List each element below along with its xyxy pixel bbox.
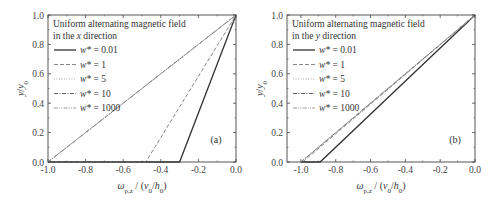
x-tick-label: -0.4 — [398, 165, 413, 175]
y-tick-label: 0.2 — [271, 128, 283, 138]
chart-a-svg: -1.0-0.8-0.6-0.4-0.20.00.00.20.40.60.81.… — [0, 0, 248, 200]
y-tick-label: 0.2 — [32, 128, 44, 138]
panel-label: (a) — [210, 134, 221, 146]
legend-title-line2: in the x direction — [53, 31, 117, 41]
x-axis-label: ωp,z / (v0/h0) — [117, 180, 166, 195]
x-tick-label: -0.8 — [328, 165, 343, 175]
legend-entry: w* = 10 — [319, 89, 350, 99]
x-tick-label: -1.0 — [293, 165, 308, 175]
y-tick-label: 0.0 — [32, 158, 44, 168]
x-tick-label: -0.4 — [153, 165, 168, 175]
legend-title: Uniform alternating magnetic field — [53, 19, 186, 29]
y-tick-label: 0.4 — [32, 99, 44, 109]
legend-entry: w* = 1 — [80, 60, 106, 70]
y-tick-label: 0.6 — [32, 69, 44, 79]
y-tick-label: 0.0 — [271, 158, 283, 168]
y-tick-label: 0.4 — [271, 99, 283, 109]
y-tick-label: 1.0 — [271, 11, 283, 21]
legend-title-line2: in the y direction — [292, 31, 356, 41]
legend-entry: w* = 1 — [319, 60, 345, 70]
legend-title: Uniform alternating magnetic field — [292, 19, 425, 29]
legend-entry: w* = 1000 — [80, 103, 120, 113]
panel-label: (b) — [449, 134, 461, 146]
x-tick-label: -0.6 — [116, 165, 131, 175]
y-tick-label: 0.8 — [32, 40, 44, 50]
x-axis-label: ωp,z / (v0/h0) — [356, 180, 405, 195]
legend-entry: w* = 0.01 — [319, 45, 357, 55]
legend-entry: w* = 5 — [319, 74, 345, 84]
x-tick-label: 0.0 — [469, 165, 481, 175]
y-tick-label: 0.6 — [271, 69, 283, 79]
x-tick-label: -0.6 — [363, 165, 378, 175]
legend-entry: w* = 1000 — [319, 103, 359, 113]
y-tick-label: 0.8 — [271, 40, 283, 50]
chart-panel-a: -1.0-0.8-0.6-0.4-0.20.00.00.20.40.60.81.… — [0, 0, 248, 200]
legend-entry: w* = 5 — [80, 74, 106, 84]
chart-b-svg: -1.0-0.8-0.6-0.4-0.20.00.00.20.40.60.81.… — [240, 0, 497, 200]
legend-entry: w* = 10 — [80, 89, 111, 99]
y-axis-label: y/y0 — [15, 80, 30, 97]
y-axis-label: y/y0 — [254, 80, 269, 97]
x-tick-label: -0.2 — [433, 165, 448, 175]
y-tick-label: 1.0 — [32, 11, 44, 21]
x-tick-label: -0.2 — [191, 165, 206, 175]
chart-panel-b: -1.0-0.8-0.6-0.4-0.20.00.00.20.40.60.81.… — [240, 0, 488, 200]
x-tick-label: -0.8 — [78, 165, 93, 175]
legend-entry: w* = 0.01 — [80, 45, 118, 55]
